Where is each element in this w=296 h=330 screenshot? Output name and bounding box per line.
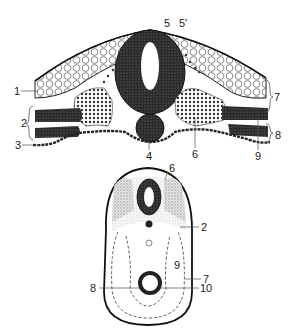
label-1: 1 [14, 86, 20, 97]
lateral-plate-left-lower [35, 126, 80, 138]
notochord-schematic [146, 221, 153, 228]
label-6: 6 [192, 149, 198, 160]
top-section [21, 30, 273, 150]
neural-canal [141, 42, 159, 90]
bottom-section [99, 168, 201, 325]
label-9: 9 [255, 151, 261, 162]
label-b-2: 2 [201, 222, 207, 233]
label-8: 8 [275, 130, 281, 141]
lateral-plate-right-upper [222, 106, 268, 120]
somite-right [175, 88, 227, 126]
label-b-10: 10 [200, 283, 212, 294]
label-b-8: 8 [90, 283, 96, 294]
label-b-9: 9 [174, 260, 180, 271]
label-4: 4 [146, 151, 152, 162]
label-2: 2 [21, 118, 27, 129]
dorsal-aorta [146, 240, 152, 246]
label-3: 3 [15, 140, 21, 151]
lateral-plate-left-upper [35, 108, 82, 122]
label-5-prime: 5' [179, 18, 187, 29]
notochord [136, 114, 164, 142]
label-5: 5 [164, 18, 170, 29]
embryo-cross-section-illustration [0, 0, 296, 330]
label-7: 7 [274, 92, 280, 103]
label-b-6: 6 [169, 163, 175, 174]
